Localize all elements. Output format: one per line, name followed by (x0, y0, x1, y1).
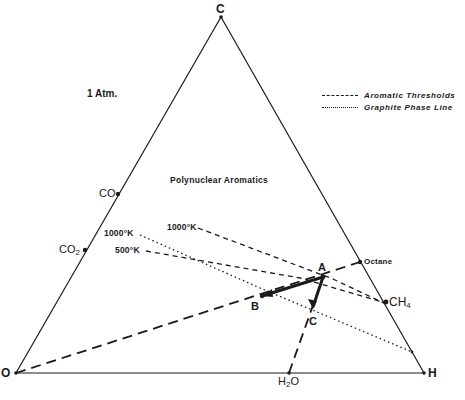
vertex-label-o: O (1, 367, 10, 379)
temp-label-aromatic-500k: 500°K (115, 246, 140, 255)
pressure-label: 1 Atm. (87, 89, 117, 99)
vertex-label-h: H (428, 367, 437, 379)
h2o-h: H (278, 375, 286, 387)
edge-c-h (221, 17, 424, 373)
species-label-octane: Octane (364, 258, 392, 266)
species-label-ch4: CH4 (389, 296, 411, 310)
point-label-b: B (251, 301, 259, 312)
temp-label-aromatic-1000k: 1000°K (167, 223, 197, 232)
ch4-base: CH (389, 295, 406, 309)
graphite-phase-line (140, 235, 412, 352)
co2-subscript: 2 (76, 248, 80, 257)
marker-o (14, 371, 18, 375)
marker-h (422, 371, 426, 375)
legend-item-graphite-phase-line: Graphite Phase Line (322, 101, 455, 113)
co2-base: CO (59, 243, 76, 255)
temp-label-graphite-1000k: 1000°K (104, 229, 134, 238)
point-label-c: C (309, 316, 317, 327)
species-label-co: CO (99, 188, 116, 199)
marker-ch4 (384, 300, 389, 305)
species-label-h2o: H2O (278, 376, 299, 389)
marker-octane (358, 260, 362, 264)
dotted-line-swatch-icon (322, 107, 358, 108)
vertex-label-c: C (216, 3, 225, 15)
marker-co (116, 192, 120, 196)
aromatic-threshold-1000k-line (198, 228, 388, 305)
region-label-polynuclear-aromatics: Polynuclear Aromatics (170, 176, 268, 185)
legend-item-aromatic-thresholds: Aromatic Thresholds (322, 89, 455, 101)
ch4-subscript: 4 (406, 301, 410, 310)
h2o-o: O (290, 375, 299, 387)
species-markers (14, 15, 426, 375)
point-label-a: A (318, 262, 326, 273)
triangle-frame (16, 17, 424, 373)
species-label-co2: CO2 (59, 244, 80, 257)
marker-graphite-end (411, 351, 414, 354)
marker-b (260, 294, 264, 298)
ternary-diagram (0, 0, 465, 400)
legend-label: Aromatic Thresholds (364, 91, 455, 100)
legend-label: Graphite Phase Line (364, 103, 453, 112)
dashed-line-swatch-icon (322, 95, 358, 96)
marker-co2 (83, 248, 87, 252)
legend: Aromatic Thresholds Graphite Phase Line (322, 89, 455, 113)
marker-a (321, 275, 326, 280)
